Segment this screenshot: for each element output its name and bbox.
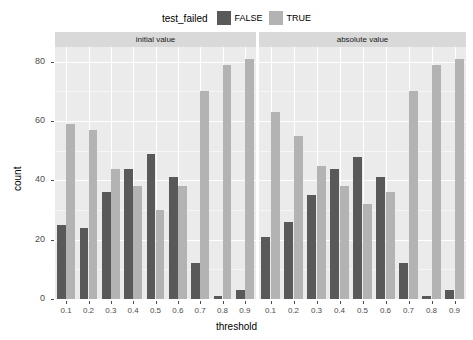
x-axis-tick-mark — [340, 301, 341, 304]
x-axis-tick-label: 0.4 — [328, 306, 352, 315]
x-axis-tick-label: 0.7 — [397, 306, 421, 315]
legend: test_failed FALSE TRUE — [0, 11, 473, 25]
x-axis-title: threshold — [0, 321, 473, 332]
x-axis-tick-mark — [133, 301, 134, 304]
bar-false-0.6 — [169, 177, 178, 299]
facet-strip-label: absolute value — [337, 35, 389, 44]
bar-true-0.3 — [111, 169, 120, 299]
y-axis-tick-mark — [51, 62, 54, 63]
plot-panel-initial-value — [55, 47, 256, 299]
x-axis-tick-mark — [111, 301, 112, 304]
bar-false-0.3 — [102, 192, 111, 299]
x-axis-tick-label: 0.3 — [305, 306, 329, 315]
x-axis-tick-label: 0.5 — [351, 306, 375, 315]
bar-false-0.2 — [284, 222, 293, 299]
y-axis-tick-mark — [51, 180, 54, 181]
legend-label-false: FALSE — [235, 13, 263, 23]
bar-true-0.8 — [223, 65, 232, 299]
y-axis-tick-label: 60 — [21, 115, 45, 125]
x-axis-tick-mark — [89, 301, 90, 304]
bar-false-0.4 — [124, 169, 133, 299]
y-axis-tick-label: 20 — [21, 234, 45, 244]
x-axis-tick-mark — [156, 301, 157, 304]
x-axis-tick-label: 0.8 — [420, 306, 444, 315]
x-axis-tick-label: 0.9 — [443, 306, 467, 315]
x-axis-tick-label: 0.2 — [77, 306, 101, 315]
x-axis-tick-mark — [294, 301, 295, 304]
x-axis-tick-label: 0.1 — [54, 306, 78, 315]
x-axis-tick-mark — [200, 301, 201, 304]
bar-true-0.4 — [340, 186, 349, 299]
facet-strip-label: initial value — [136, 35, 176, 44]
bar-false-0.1 — [57, 225, 66, 299]
y-axis-tick-label: 40 — [21, 174, 45, 184]
bar-false-0.7 — [191, 263, 200, 299]
x-axis-tick-mark — [455, 301, 456, 304]
bar-false-0.5 — [147, 154, 156, 299]
bar-true-0.5 — [363, 204, 372, 299]
bar-false-0.9 — [236, 290, 245, 299]
bar-false-0.7 — [399, 263, 408, 299]
x-axis-tick-mark — [245, 301, 246, 304]
x-axis-tick-mark — [271, 301, 272, 304]
x-axis-tick-label: 0.6 — [374, 306, 398, 315]
facet-strip-initial-value: initial value — [55, 32, 256, 47]
bar-true-0.1 — [66, 124, 75, 299]
x-axis-tick-label: 0.6 — [166, 306, 190, 315]
bar-false-0.4 — [330, 169, 339, 299]
y-axis-tick-mark — [51, 299, 54, 300]
x-axis-tick-mark — [432, 301, 433, 304]
bar-true-0.4 — [133, 186, 142, 299]
x-axis-tick-mark — [223, 301, 224, 304]
bar-false-0.8 — [422, 296, 431, 299]
bar-true-0.6 — [386, 192, 395, 299]
bar-true-0.7 — [200, 91, 209, 299]
x-axis-tick-label: 0.4 — [121, 306, 145, 315]
x-axis-tick-mark — [386, 301, 387, 304]
x-axis-tick-label: 0.9 — [233, 306, 257, 315]
bar-false-0.2 — [80, 228, 89, 299]
legend-title: test_failed — [162, 13, 208, 24]
bar-true-0.9 — [455, 59, 464, 299]
bar-true-0.3 — [317, 166, 326, 299]
bar-false-0.3 — [307, 195, 316, 299]
y-axis-tick-mark — [51, 121, 54, 122]
bar-false-0.5 — [353, 157, 362, 299]
bar-true-0.6 — [178, 186, 187, 299]
chart-root: test_failed FALSE TRUE initial value abs… — [0, 0, 473, 340]
bar-true-0.2 — [89, 130, 98, 299]
bar-true-0.5 — [156, 210, 165, 299]
bar-true-0.7 — [409, 91, 418, 299]
x-axis-tick-mark — [317, 301, 318, 304]
bar-false-0.6 — [376, 177, 385, 299]
bar-false-0.1 — [261, 237, 270, 299]
x-axis-tick-label: 0.7 — [188, 306, 212, 315]
y-axis-tick-label: 80 — [21, 56, 45, 66]
x-axis-tick-mark — [66, 301, 67, 304]
x-axis-tick-label: 0.2 — [282, 306, 306, 315]
y-axis-tick-label: 0 — [21, 293, 45, 303]
x-axis-tick-label: 0.8 — [211, 306, 235, 315]
bar-false-0.8 — [214, 296, 223, 299]
bar-true-0.1 — [271, 112, 280, 299]
x-axis-tick-mark — [409, 301, 410, 304]
facet-strip-absolute-value: absolute value — [259, 32, 466, 47]
bar-true-0.2 — [294, 136, 303, 299]
y-axis-title: count — [12, 167, 23, 191]
legend-item-false[interactable]: FALSE — [217, 11, 263, 25]
x-axis-tick-label: 0.3 — [99, 306, 123, 315]
x-axis-tick-label: 0.5 — [144, 306, 168, 315]
bar-true-0.8 — [432, 65, 441, 299]
legend-swatch-true — [269, 11, 283, 25]
legend-label-true: TRUE — [287, 13, 312, 23]
y-axis-tick-mark — [51, 240, 54, 241]
x-axis-tick-mark — [178, 301, 179, 304]
bar-true-0.9 — [245, 59, 254, 299]
x-axis-tick-label: 0.1 — [259, 306, 283, 315]
legend-swatch-false — [217, 11, 231, 25]
legend-item-true[interactable]: TRUE — [269, 11, 312, 25]
x-axis-tick-mark — [363, 301, 364, 304]
bar-false-0.9 — [445, 290, 454, 299]
plot-panel-absolute-value — [259, 47, 466, 299]
